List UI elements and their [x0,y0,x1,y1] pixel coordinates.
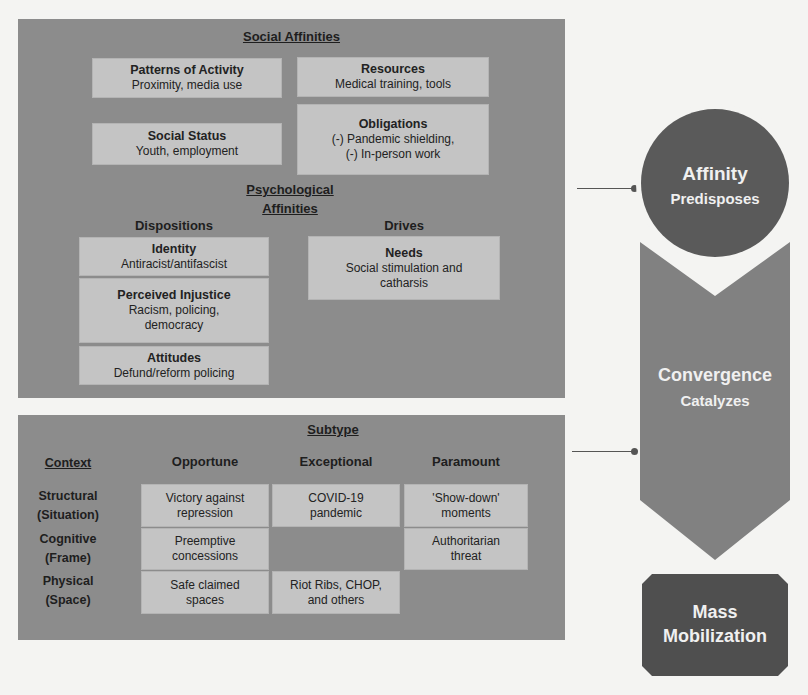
mobilization-line1: Mass [642,600,788,624]
affinity-subtitle: Predisposes [640,190,790,207]
process-shapes [0,0,808,695]
affinity-title: Affinity [640,163,790,185]
convergence-title: Convergence [636,365,794,386]
mobilization-line2: Mobilization [642,624,788,648]
convergence-subtitle: Catalyzes [640,392,790,409]
mass-mobilization-label: Mass Mobilization [642,600,788,648]
